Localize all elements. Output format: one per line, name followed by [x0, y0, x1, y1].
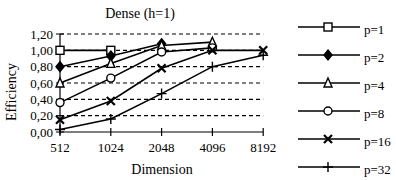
legend-item: p=8: [298, 106, 384, 121]
x-axis: 5121024204840968192: [50, 128, 276, 155]
legend-item: p=2: [298, 50, 384, 65]
legend-item: p=16: [298, 134, 391, 149]
x-tick-label: 4096: [199, 140, 226, 155]
y-tick-label: 0,80: [30, 59, 53, 74]
y-tick-label: 1,20: [30, 27, 53, 42]
plus-marker-icon: [323, 162, 333, 172]
circle-marker-icon: [56, 99, 64, 107]
legend-label: p=8: [364, 106, 384, 121]
diamond-marker-icon: [56, 62, 64, 72]
x-tick-label: 8192: [250, 140, 276, 155]
legend-label: p=16: [364, 134, 391, 149]
circle-marker-icon: [324, 107, 332, 115]
series-p-32: [55, 50, 268, 134]
data-series: [55, 37, 268, 134]
plus-marker-icon: [258, 50, 268, 60]
x-tick-label: 1024: [98, 140, 125, 155]
legend-label: p=2: [364, 50, 384, 65]
y-tick-label: 0,00: [30, 125, 53, 140]
plus-marker-icon: [106, 114, 116, 124]
y-tick-label: 1,00: [30, 43, 53, 58]
legend-item: p=32: [298, 162, 391, 177]
square-marker-icon: [56, 46, 64, 54]
y-tick-label: 0,40: [30, 92, 53, 107]
x-marker-icon: [107, 97, 115, 105]
plus-marker-icon: [55, 125, 65, 135]
legend: p=1p=2p=4p=8p=16p=32: [298, 22, 391, 177]
y-axis-label: Efficiency: [4, 63, 19, 121]
legend-item: p=4: [298, 78, 385, 93]
series-p-1: [56, 46, 115, 54]
x-marker-icon: [158, 64, 166, 72]
chart-title: Dense (h=1): [105, 6, 175, 22]
square-marker-icon: [324, 23, 332, 31]
diamond-marker-icon: [324, 50, 332, 60]
circle-marker-icon: [107, 74, 115, 82]
x-tick-label: 2048: [149, 140, 175, 155]
legend-label: p=1: [364, 22, 384, 37]
y-tick-label: 0,60: [30, 76, 53, 91]
y-tick-label: 0,20: [30, 108, 53, 123]
x-axis-label: Dimension: [131, 162, 192, 177]
efficiency-chart: Dense (h=1) 0,000,200,400,600,801,001,20…: [0, 0, 396, 180]
legend-item: p=1: [298, 22, 384, 37]
x-tick-label: 512: [50, 140, 70, 155]
legend-label: p=32: [364, 162, 391, 177]
series-p-16: [56, 46, 267, 123]
legend-label: p=4: [364, 78, 385, 93]
plus-marker-icon: [157, 89, 167, 99]
circle-marker-icon: [158, 48, 166, 56]
plus-marker-icon: [207, 62, 217, 72]
